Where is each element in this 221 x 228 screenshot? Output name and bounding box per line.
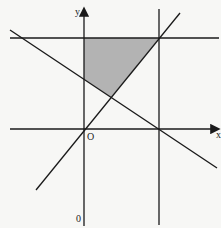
coordinate-diagram: y x O 0 [0,0,221,228]
origin-label: O [87,131,94,142]
x-axis-label: x [216,129,221,140]
bottom-zero-label: 0 [76,213,81,224]
y-axis-label: y [75,6,80,17]
shaded-feasible-region [84,38,159,97]
